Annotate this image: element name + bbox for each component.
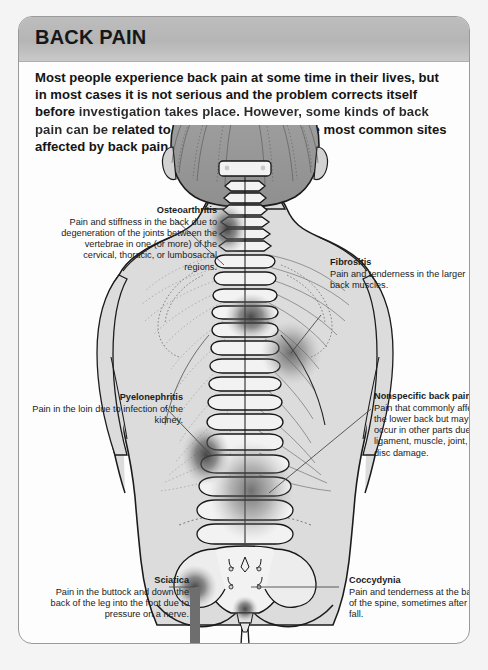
annotation-sciatica: Sciatica Pain in the buttock and down th… [41,575,189,620]
annotation-coccydynia-title: Coccydynia [349,575,470,586]
anatomical-figure [19,125,470,644]
annotation-osteoarthritis: Osteoarthritis Pain and stiffness in the… [57,205,217,273]
annotation-pyelonephritis-body: Pain in the loin due to infection of the… [32,404,183,425]
annotation-coccydynia: Coccydynia Pain and tenderness at the ba… [349,575,470,620]
annotation-sciatica-title: Sciatica [41,575,189,586]
back-pain-card: BACK PAIN Most people experience back pa… [18,16,470,644]
annotation-coccydynia-body: Pain and tenderness at the base of the s… [349,587,470,619]
pain-spot-lumbar [209,441,293,541]
page-background: BACK PAIN Most people experience back pa… [0,0,488,670]
annotation-fibrositis-title: Fibrositis [330,257,470,268]
annotation-sciatica-body: Pain in the buttock and down the back of… [51,587,189,619]
annotation-fibrositis: Fibrositis Pain and tenderness in the la… [330,257,470,291]
page-title: BACK PAIN [35,26,146,49]
annotation-fibrositis-body: Pain and tenderness in the larger back m… [330,269,465,290]
annotation-osteoarthritis-body: Pain and stiffness in the back due to de… [61,217,217,272]
annotation-nonspecific-back-pain-title: Nonspecific back pain [374,391,470,402]
annotation-nonspecific-back-pain-body: Pain that commonly affects the lower bac… [374,403,470,458]
annotation-pyelonephritis-title: Pyelonephritis [31,392,183,403]
annotation-osteoarthritis-title: Osteoarthritis [57,205,217,216]
pain-spot-coccyx [232,596,258,622]
annotation-nonspecific-back-pain: Nonspecific back pain Pain that commonly… [374,391,470,459]
annotation-pyelonephritis: Pyelonephritis Pain in the loin due to i… [31,392,183,426]
